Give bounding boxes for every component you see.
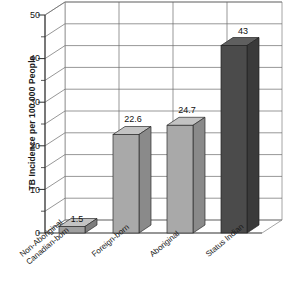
floor-right-edge [262,220,282,233]
bar-foreign-born [113,127,151,234]
tb-incidence-bar-chart: TB Incidence per 100 000 People 50 40 30… [0,0,283,307]
plot-canvas [0,0,283,307]
data-label-status-indian: 43 [228,27,258,36]
data-label-non-aboriginal-canadian-born: 1.5 [60,215,94,224]
y-axis-ticks [38,15,45,233]
bar-aboriginal [167,117,205,233]
bar-status-indian [221,38,259,234]
data-label-foreign-born: 22.6 [114,115,152,124]
data-label-aboriginal: 24.7 [168,106,206,115]
